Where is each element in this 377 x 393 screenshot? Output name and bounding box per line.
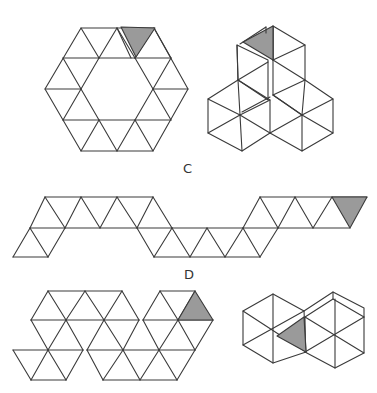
folded-solid-top [208, 26, 333, 151]
folded-solid-d [243, 292, 364, 368]
hexagon-net-d [13, 291, 213, 380]
shaded-triangle [332, 197, 367, 228]
strip-net-c [13, 197, 367, 257]
label-d: D [184, 267, 194, 282]
diagram-canvas [0, 0, 377, 393]
shaded-triangle [277, 317, 306, 352]
shaded-triangle [121, 27, 155, 57]
label-c: C [183, 161, 192, 176]
shaded-triangle [178, 291, 213, 320]
hexagon-ring-net [45, 27, 188, 151]
